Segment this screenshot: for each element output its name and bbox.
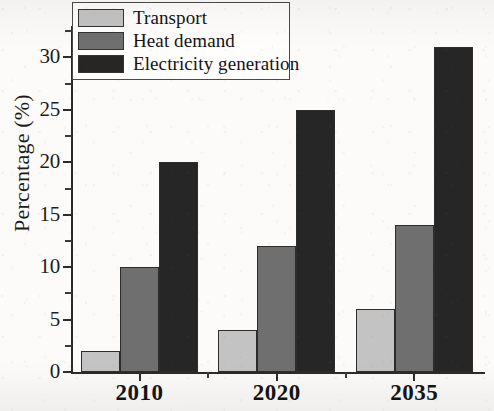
y-tick-label: 0 — [0, 359, 60, 384]
y-tick-minor — [65, 240, 72, 242]
legend-label-heat-demand: Heat demand — [133, 30, 235, 52]
legend-swatch-heat-demand — [78, 32, 124, 50]
y-tick-label: 30 — [0, 44, 60, 69]
bar-transport-2010 — [81, 351, 120, 372]
y-tick-minor — [65, 188, 72, 190]
y-tick-major — [63, 161, 72, 163]
y-tick-major — [63, 319, 72, 321]
y-tick-major — [63, 56, 72, 58]
y-tick-label: 10 — [0, 254, 60, 279]
x-tick-label-2035: 2035 — [354, 380, 474, 406]
bar-electricity-generation-2020 — [296, 110, 335, 372]
y-tick-major — [63, 109, 72, 111]
bar-chart-figure: Percentage (%) 051015202530 201020202035… — [0, 0, 494, 411]
bar-electricity-generation-2010 — [159, 162, 198, 372]
x-tick-label-2010: 2010 — [80, 380, 200, 406]
y-tick-major — [63, 214, 72, 216]
bar-heat-demand-2020 — [257, 246, 296, 372]
legend-item-heat-demand: Heat demand — [78, 29, 284, 52]
plot-area — [72, 32, 484, 372]
legend-label-electricity-generation: Electricity generation — [133, 53, 299, 75]
bar-electricity-generation-2035 — [434, 47, 473, 372]
y-tick-label: 25 — [0, 97, 60, 122]
y-tick-minor — [65, 135, 72, 137]
legend-swatch-electricity-generation — [78, 55, 124, 73]
x-tick-minor — [345, 372, 347, 378]
y-tick-minor — [65, 345, 72, 347]
bar-heat-demand-2010 — [120, 267, 159, 372]
y-tick-label: 15 — [0, 202, 60, 227]
y-tick-major — [63, 266, 72, 268]
y-tick-minor — [65, 30, 72, 32]
legend-item-electricity-generation: Electricity generation — [78, 52, 284, 75]
y-tick-label: 20 — [0, 149, 60, 174]
legend-swatch-transport — [78, 9, 124, 27]
y-tick-minor — [65, 83, 72, 85]
x-axis-line — [71, 372, 485, 374]
y-tick-minor — [65, 292, 72, 294]
y-tick-major — [63, 371, 72, 373]
bar-transport-2035 — [356, 309, 395, 372]
chart-legend: Transport Heat demand Electricity genera… — [72, 2, 290, 80]
bar-heat-demand-2035 — [395, 225, 434, 372]
x-tick-label-2020: 2020 — [217, 380, 337, 406]
legend-item-transport: Transport — [78, 6, 284, 29]
x-tick-minor — [207, 372, 209, 378]
bar-transport-2020 — [218, 330, 257, 372]
legend-label-transport: Transport — [133, 7, 207, 29]
y-tick-label: 5 — [0, 307, 60, 332]
